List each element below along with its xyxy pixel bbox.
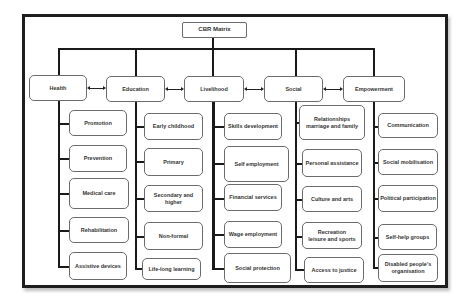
component-empowerment: Empowerment — [343, 76, 405, 102]
branch — [135, 161, 144, 163]
branch — [212, 198, 224, 200]
branch — [135, 236, 144, 238]
element-assistive-devices: Assistive devices — [69, 252, 127, 280]
spine-social — [295, 102, 297, 270]
branch — [58, 193, 69, 195]
element-culture-and-arts: Culture and arts — [302, 186, 362, 212]
branch — [295, 163, 302, 165]
element-rehabilitation: Rehabilitation — [69, 217, 129, 243]
element-social-mobilisation: Social mobilisation — [378, 149, 438, 175]
branch — [58, 123, 69, 125]
double-arrow-livelihood-social — [246, 89, 262, 90]
drop-empowerment — [373, 48, 375, 76]
element-political-participation: Political participation — [378, 185, 438, 212]
element-non-formal: Non-formal — [144, 222, 203, 250]
element-primary: Primary — [144, 148, 203, 176]
element-prevention: Prevention — [69, 145, 127, 172]
top-horizontal-connector — [58, 48, 374, 50]
branch — [212, 234, 224, 236]
element-access-to-justice: Access to justice — [304, 257, 364, 283]
branch — [58, 158, 69, 160]
branch — [212, 163, 224, 165]
element-recreation-leisure-and-sports: Recreation leisure and sports — [302, 222, 362, 249]
component-education: Education — [106, 76, 165, 102]
branch — [212, 268, 224, 270]
branch — [135, 268, 142, 270]
drop-health — [58, 48, 60, 75]
element-communication: Communication — [378, 113, 438, 138]
element-wage-employment: Wage employment — [224, 221, 282, 248]
double-arrow-health-education — [89, 88, 104, 89]
component-livelihood: Livelihood — [184, 76, 244, 102]
element-relationships-marriage-and-family: Relationships marriage and family — [299, 105, 365, 140]
element-early-childhood: Early childhood — [144, 113, 203, 140]
element-self-employment: Self employment — [224, 146, 289, 182]
element-secondary-and-higher: Secondary and higher — [144, 185, 203, 212]
element-skills-development: Skills development — [224, 113, 282, 140]
element-self-help-groups: Self-help groups — [378, 224, 437, 250]
drop-education — [135, 48, 137, 76]
element-life-long-learning: Life-long learning — [142, 258, 201, 280]
element-financial-services: Financial services — [224, 184, 282, 211]
drop-social — [295, 48, 297, 76]
double-arrow-education-livelihood — [167, 89, 182, 90]
element-disabled-peoples-organisation: Disabled people's organisation — [378, 254, 438, 282]
component-health: Health — [29, 75, 87, 101]
branch — [212, 126, 224, 128]
branch — [58, 230, 69, 232]
element-personal-assistance: Personal assistance — [302, 149, 362, 177]
branch — [295, 199, 302, 201]
drop-livelihood — [212, 48, 214, 76]
branch — [295, 269, 304, 271]
root-node-cbr-matrix: CBR Matrix — [182, 22, 247, 38]
element-medical-care: Medical care — [69, 178, 129, 209]
double-arrow-social-empowerment — [325, 89, 341, 90]
component-social: Social — [264, 76, 323, 102]
element-social-protection: Social protection — [224, 253, 291, 283]
branch — [295, 236, 302, 238]
branch — [135, 126, 144, 128]
element-promotion: Promotion — [69, 110, 127, 136]
branch — [58, 266, 69, 268]
branch — [135, 198, 144, 200]
spine-health — [58, 101, 60, 267]
